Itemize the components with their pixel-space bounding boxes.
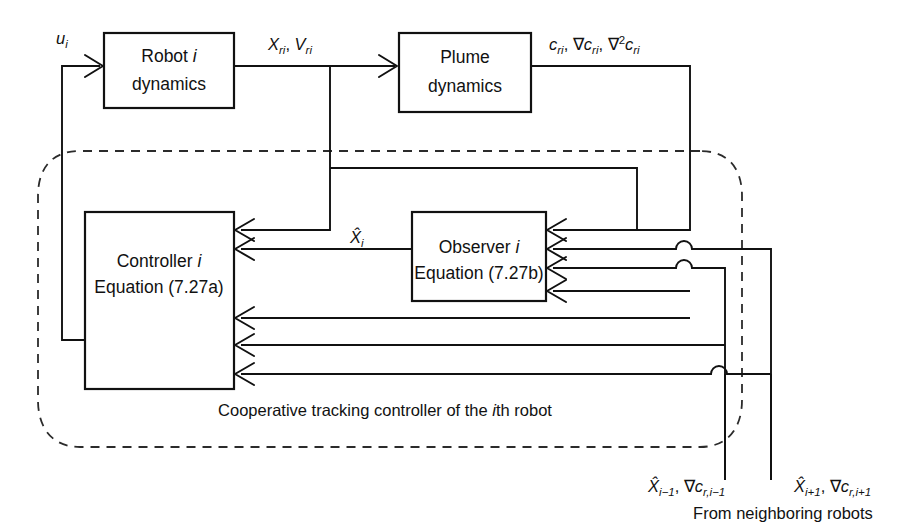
wire-neighbor-next-to-controller <box>241 366 771 374</box>
signal-label-robot-state: Xri, Vri <box>267 35 312 56</box>
signal-label-estimate-self: X̂i <box>349 227 364 249</box>
block-controller[interactable] <box>85 212 234 389</box>
block-plume-label-line2: dynamics <box>428 76 502 96</box>
block-robot-dynamics[interactable] <box>104 33 234 108</box>
block-plume-label-line1: Plume <box>440 47 490 67</box>
caption-cooperative-controller: Cooperative tracking controller of the i… <box>218 401 552 419</box>
block-robot-label-line1: Robot i <box>141 46 198 66</box>
caption-from-neighboring-robots: From neighboring robots <box>693 504 873 522</box>
block-robot-label-line2: dynamics <box>132 74 206 94</box>
block-plume-dynamics[interactable] <box>399 33 531 112</box>
signal-label-control-input: ui <box>56 29 68 50</box>
wire-plume-output-to-observer <box>531 66 690 230</box>
wire-robot-state-branch-to-controller <box>241 66 330 230</box>
cooperative-tracking-block-diagram: Robot i dynamics Plume dynamics Controll… <box>0 0 916 527</box>
block-controller-label-line2: Equation (7.27a) <box>94 277 223 297</box>
block-observer-label-line2: Equation (7.27b) <box>414 263 543 283</box>
block-observer-label-line1: Observer i <box>439 237 521 257</box>
block-controller-label-line1: Controller i <box>117 251 203 271</box>
signal-label-plume-output: cri, ∇cri, ∇2cri <box>549 34 640 56</box>
signal-label-neighbor-next: X̂i+1, ∇cr,i+1 <box>793 476 871 498</box>
block-diagram-page: Robot i dynamics Plume dynamics Controll… <box>0 0 916 527</box>
signal-label-neighbor-prev: X̂i−1, ∇cr,i−1 <box>647 476 725 498</box>
wire-neighbor-next-to-observer <box>553 241 771 480</box>
